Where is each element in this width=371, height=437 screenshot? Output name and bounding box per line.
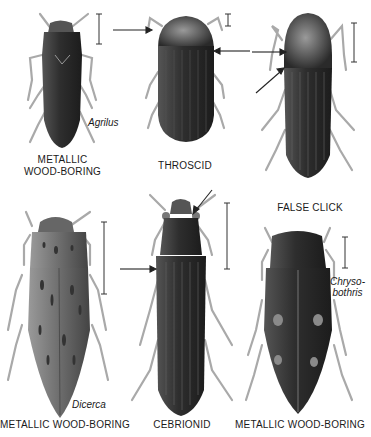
throscid-beetle [158, 16, 214, 142]
chrysobothris-scale-bar [342, 237, 348, 268]
beetle-plate [0, 0, 371, 437]
agrilus-beetle [42, 21, 82, 149]
common-name-line1: METALLIC [0, 154, 125, 166]
cebrionid-scale-bar [224, 203, 230, 269]
false-click-arrows [252, 49, 286, 93]
genus-line2: bothris [330, 287, 365, 298]
genus-label-dicerca: Dicerca [72, 399, 106, 410]
common-name-chrysobothris: METALLIC WOOD-BORING [235, 419, 353, 431]
genus-label-agrilus: Agrilus [88, 117, 119, 128]
common-name-cebrionid: CEBRIONID [152, 419, 212, 431]
genus-line1: Chryso- [330, 276, 365, 287]
agrilus-scale-bar [96, 14, 102, 44]
dicerca-beetle [28, 217, 90, 418]
common-name-line2: WOOD-BORING [0, 166, 125, 178]
throscid-scale-bar [225, 14, 231, 26]
chrysobothris-beetle [264, 231, 332, 414]
genus-label-chrysobothris: Chryso- bothris [330, 276, 365, 298]
dicerca-scale-bar [101, 222, 107, 294]
common-name-throscid: THROSCID [140, 160, 230, 172]
false-click-scale-bar [351, 23, 357, 62]
cebrionid-beetle [156, 199, 206, 416]
common-name-false-click: FALSE CLICK [265, 202, 355, 214]
common-name-agrilus: METALLIC WOOD-BORING [0, 154, 125, 178]
common-name-dicerca: METALLIC WOOD-BORING [0, 419, 118, 431]
false-click-beetle [284, 13, 332, 178]
